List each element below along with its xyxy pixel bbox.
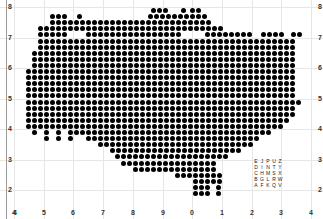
dot-marker xyxy=(206,118,211,123)
dot-marker xyxy=(116,26,121,31)
dot-marker xyxy=(284,106,289,111)
dot-marker xyxy=(56,136,61,141)
dot-marker xyxy=(194,142,199,147)
dot-marker xyxy=(266,100,271,105)
dot-marker xyxy=(122,57,127,62)
dot-marker xyxy=(291,32,296,37)
dot-marker xyxy=(193,191,198,196)
dot-marker xyxy=(176,20,181,25)
dot-marker xyxy=(116,81,121,86)
dot-marker xyxy=(230,51,235,56)
dot-marker xyxy=(196,8,201,13)
dot-marker xyxy=(145,161,150,166)
dot-marker xyxy=(242,87,247,92)
dot-marker xyxy=(236,69,241,74)
dot-marker xyxy=(56,51,61,56)
dot-marker xyxy=(86,32,91,37)
dot-marker xyxy=(92,26,97,31)
dot-marker xyxy=(26,106,31,111)
dot-marker xyxy=(224,136,229,141)
dot-marker xyxy=(80,106,85,111)
dot-marker xyxy=(38,63,43,68)
dot-marker xyxy=(151,154,156,159)
dot-marker xyxy=(199,173,204,178)
dot-marker xyxy=(56,32,61,37)
dot-marker xyxy=(248,87,253,92)
dot-marker xyxy=(254,124,259,129)
dot-marker xyxy=(170,20,175,25)
dot-marker xyxy=(122,93,127,98)
dot-marker xyxy=(110,112,115,117)
dot-marker xyxy=(134,130,139,135)
dot-marker xyxy=(56,81,61,86)
dot-marker xyxy=(74,75,79,80)
dot-marker xyxy=(199,185,204,190)
dot-marker xyxy=(230,75,235,80)
dot-marker xyxy=(32,81,37,86)
dot-marker xyxy=(38,81,43,86)
dot-marker xyxy=(158,130,163,135)
dot-marker xyxy=(290,63,295,68)
dot-marker xyxy=(194,112,199,117)
dot-marker xyxy=(236,130,241,135)
dot-marker xyxy=(134,51,139,56)
dot-marker xyxy=(62,81,67,86)
dot-marker xyxy=(110,20,115,25)
dot-marker xyxy=(242,106,247,111)
dot-marker xyxy=(182,87,187,92)
dot-marker xyxy=(44,45,49,50)
dot-marker xyxy=(56,100,61,105)
dot-marker xyxy=(164,26,169,31)
dot-marker xyxy=(212,148,217,153)
dot-marker xyxy=(140,124,145,129)
dot-marker xyxy=(212,39,217,44)
dot-marker xyxy=(248,118,253,123)
dot-marker xyxy=(134,45,139,50)
dot-marker xyxy=(278,63,283,68)
dot-marker xyxy=(200,81,205,86)
dot-marker xyxy=(116,124,121,129)
dot-marker xyxy=(254,75,259,80)
dot-marker xyxy=(181,167,186,172)
dot-marker xyxy=(218,100,223,105)
gridline-horizontal xyxy=(0,190,323,191)
dot-marker xyxy=(176,51,181,56)
dot-marker xyxy=(176,136,181,141)
dot-marker xyxy=(194,26,199,31)
dot-marker xyxy=(158,112,163,117)
dot-marker xyxy=(200,69,205,74)
dot-marker xyxy=(86,57,91,62)
dot-marker xyxy=(80,51,85,56)
dot-marker xyxy=(230,142,235,147)
dot-marker xyxy=(164,20,169,25)
dot-marker xyxy=(80,81,85,86)
dot-marker xyxy=(212,106,217,111)
dot-marker xyxy=(284,118,289,123)
dot-marker xyxy=(266,118,271,123)
dot-marker xyxy=(116,136,121,141)
dot-marker xyxy=(98,100,103,105)
dot-marker xyxy=(104,51,109,56)
dot-marker xyxy=(182,39,187,44)
dot-marker xyxy=(68,81,73,86)
dot-marker xyxy=(182,75,187,80)
dot-marker xyxy=(170,63,175,68)
dot-marker xyxy=(206,130,211,135)
dot-marker xyxy=(218,63,223,68)
dot-marker xyxy=(241,32,246,37)
dot-marker xyxy=(104,45,109,50)
dot-marker xyxy=(50,118,55,123)
dot-marker xyxy=(128,106,133,111)
dot-marker xyxy=(230,69,235,74)
dot-marker xyxy=(218,118,223,123)
dot-marker xyxy=(122,75,127,80)
dot-marker xyxy=(121,161,126,166)
x-tick-label: 1 xyxy=(220,209,224,216)
dot-marker xyxy=(152,39,157,44)
dot-marker xyxy=(86,20,91,25)
dot-marker xyxy=(38,57,43,62)
dot-marker xyxy=(200,148,205,153)
dot-marker xyxy=(116,63,121,68)
dot-marker xyxy=(188,93,193,98)
dot-marker xyxy=(92,106,97,111)
